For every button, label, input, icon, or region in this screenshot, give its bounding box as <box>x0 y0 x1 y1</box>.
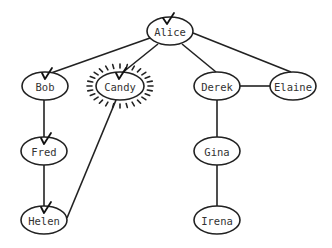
halo-tick <box>142 72 146 75</box>
halo-tick <box>142 97 146 100</box>
halo-tick <box>90 77 95 79</box>
node-label: Derek <box>201 81 233 93</box>
halo-tick <box>88 90 93 91</box>
node-fred[interactable]: Fred <box>21 137 67 165</box>
halo-tick <box>106 66 108 70</box>
node-alice[interactable]: Alice <box>147 17 193 45</box>
halo-tick <box>132 102 134 106</box>
node-label: Candy <box>104 81 136 93</box>
edge-candy-helen <box>67 100 116 218</box>
halo-tick <box>138 100 141 103</box>
halo-tick <box>94 97 98 100</box>
node-label: Elaine <box>274 81 312 93</box>
halo-tick <box>138 69 141 72</box>
node-gina[interactable]: Gina <box>194 137 240 165</box>
halo-tick <box>88 81 93 82</box>
node-elaine[interactable]: Elaine <box>270 72 316 100</box>
edge-alice-bob <box>51 38 150 73</box>
node-derek[interactable]: Derek <box>194 72 240 100</box>
halo-tick <box>132 66 134 70</box>
edge-alice-derek <box>182 44 216 72</box>
halo-tick <box>145 77 150 79</box>
graph-diagram: Alice Bob Candy Derek Elaine Fred Gina H… <box>0 0 332 248</box>
node-irena[interactable]: Irena <box>194 206 240 234</box>
halo-tick <box>106 102 108 106</box>
halo-tick <box>94 72 98 75</box>
halo-tick <box>145 94 150 96</box>
node-label: Irena <box>201 215 233 227</box>
halo-tick <box>113 104 114 108</box>
halo-tick <box>99 100 102 103</box>
node-label: Bob <box>36 81 55 93</box>
halo-tick <box>126 104 127 108</box>
node-label: Alice <box>154 26 186 38</box>
halo-tick <box>99 69 102 72</box>
edges <box>44 33 291 218</box>
halo-tick <box>90 94 95 96</box>
node-label: Helen <box>28 215 60 227</box>
node-bob[interactable]: Bob <box>22 72 68 100</box>
node-helen[interactable]: Helen <box>21 206 67 234</box>
node-label: Fred <box>31 146 56 158</box>
halo-tick <box>147 81 152 82</box>
halo-tick <box>113 65 114 69</box>
node-label: Gina <box>204 146 229 158</box>
halo-tick <box>147 90 152 91</box>
